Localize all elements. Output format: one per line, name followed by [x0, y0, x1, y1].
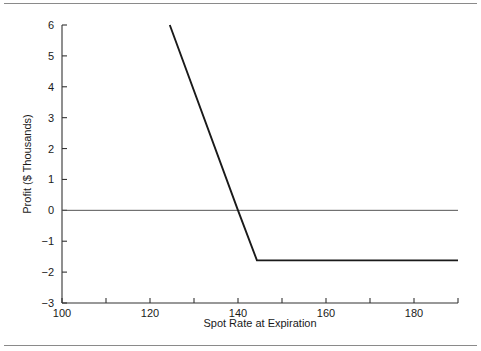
x-axis-ticks [62, 298, 458, 303]
y-tick-label: 0 [48, 204, 54, 216]
y-tick-label: 1 [48, 173, 54, 185]
y-tick-label: −1 [41, 235, 54, 247]
line-chart: −3−2−10123456 100120140160180 Spot Rate … [0, 0, 481, 351]
y-axis-ticks [62, 25, 67, 303]
y-tick-label: −2 [41, 266, 54, 278]
x-axis-title: Spot Rate at Expiration [203, 317, 316, 329]
x-tick-label: 100 [53, 307, 71, 319]
y-tick-label: 4 [48, 81, 54, 93]
x-tick-label: 180 [405, 307, 423, 319]
y-tick-label: 2 [48, 143, 54, 155]
y-tick-label: 5 [48, 50, 54, 62]
y-tick-label: 6 [48, 19, 54, 31]
profit-payoff-line [170, 25, 458, 260]
y-axis-title: Profit ($ Thousands) [21, 114, 33, 213]
bottom-divider-rule [4, 345, 477, 346]
x-tick-label: 160 [317, 307, 335, 319]
x-tick-label: 120 [141, 307, 159, 319]
top-divider-rule [4, 3, 477, 4]
y-axis-tick-labels: −3−2−10123456 [41, 19, 54, 309]
y-tick-label: 3 [48, 112, 54, 124]
profit-diagram-figure: −3−2−10123456 100120140160180 Spot Rate … [0, 0, 481, 351]
